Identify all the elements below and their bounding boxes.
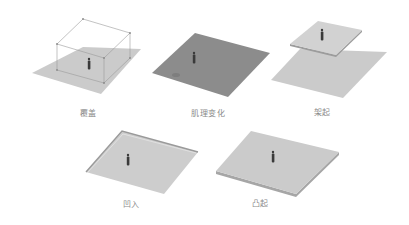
person-icon: [88, 58, 91, 70]
label-recessed: 凹入: [123, 198, 140, 209]
spatial-types-diagram: 覆盖 肌理变化 架起 凹入 凸起: [0, 0, 409, 225]
label-cover: 覆盖: [80, 107, 97, 118]
panel-raised: [216, 131, 339, 197]
textured-plane: [152, 33, 270, 97]
label-raised: 凸起: [252, 197, 269, 208]
person-icon: [193, 52, 196, 64]
person-icon: [321, 29, 324, 41]
panel-recessed: [86, 131, 198, 194]
ground-plane: [271, 49, 387, 98]
panel-texture-change: [152, 33, 270, 97]
label-elevated: 架起: [314, 106, 331, 117]
panel-elevated: [271, 21, 387, 98]
label-texture-change: 肌理变化: [191, 107, 225, 118]
raised-plane: [216, 131, 339, 194]
ground-plane: [32, 47, 141, 94]
person-icon: [127, 154, 130, 166]
person-icon: [272, 151, 275, 163]
recessed-plane: [86, 131, 198, 194]
panel-cover: [32, 18, 141, 94]
